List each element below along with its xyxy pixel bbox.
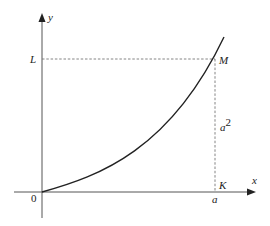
x-axis-arrow-icon	[247, 189, 256, 196]
x-axis-label: x	[251, 174, 257, 186]
origin-label: 0	[31, 192, 37, 204]
point-label-M: M	[218, 54, 229, 66]
y-axis-label: y	[47, 11, 53, 23]
point-label-K: K	[218, 179, 227, 191]
y-axis-arrow-icon	[39, 13, 46, 22]
function-diagram: y x 0 L M K a a2	[0, 0, 270, 226]
a-squared-exponent: 2	[226, 116, 232, 128]
segment-label-a-squared: a2	[220, 116, 231, 133]
point-label-L: L	[29, 53, 36, 65]
x-value-label-a: a	[212, 193, 218, 205]
curve-y-equals-x-squared	[42, 37, 224, 192]
